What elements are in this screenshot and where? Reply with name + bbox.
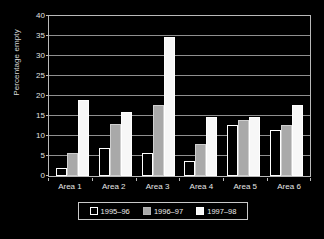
x-tick-label: Area 4 [179,178,223,194]
x-tick-label-text: Area 2 [102,182,126,191]
bar-group [179,16,222,176]
x-tick-label: Area 6 [267,178,311,194]
y-tick-label: 5 [41,152,45,160]
legend-swatch [90,207,98,215]
y-axis-title: Percentage empty [12,3,21,123]
legend-label: 1997–98 [207,207,236,216]
chart-legend: 1995–961996–971997–98 [78,202,248,220]
bar-group [137,16,180,176]
x-tick-mark [92,178,93,181]
x-tick-mark [136,178,137,181]
plot-area: 0510152025303540 [48,15,311,177]
y-tick-label: 30 [36,52,45,60]
y-tick-label: 25 [36,72,45,80]
legend-swatch [196,207,204,215]
bar [195,144,206,176]
x-tick-mark [223,178,224,181]
x-tick-label-text: Area 3 [146,182,170,191]
bar [249,117,260,176]
x-tick-label-text: Area 4 [190,182,214,191]
bar [184,161,195,176]
legend-item[interactable]: 1995–96 [90,207,130,216]
y-tick-label: 15 [36,112,45,120]
bar [99,148,110,176]
bar [164,37,175,176]
x-tick-label: Area 2 [92,178,136,194]
y-tick-label: 35 [36,32,45,40]
bar [227,125,238,176]
bar-group [51,16,94,176]
bar [78,100,89,176]
x-tick-mark [267,178,268,181]
y-tick-label: 0 [41,172,45,180]
bar [206,117,217,176]
bar [56,168,67,176]
x-tick-label-text: Area 5 [233,182,257,191]
y-tick-label: 20 [36,92,45,100]
x-tick-label-text: Area 1 [58,182,82,191]
x-tick-mark [48,178,49,181]
x-tick-label: Area 5 [223,178,267,194]
bar [110,124,121,176]
x-tick-mark [310,178,311,181]
x-tick-label: Area 3 [136,178,180,194]
bar-group [222,16,265,176]
bar-chart-figure: Percentage empty 0510152025303540 Area 1… [0,0,324,239]
legend-label: 1996–97 [154,207,183,216]
legend-swatch [143,207,151,215]
bar-groups [49,16,310,176]
y-tick-label: 10 [36,132,45,140]
bar [153,105,164,176]
y-tick-label: 40 [36,12,45,20]
x-tick-mark [179,178,180,181]
bar [67,153,78,176]
bar-group [94,16,137,176]
x-tick-label: Area 1 [48,178,92,194]
bar [270,130,281,176]
bar [281,125,292,176]
bar [142,153,153,176]
legend-item[interactable]: 1996–97 [143,207,183,216]
legend-item[interactable]: 1997–98 [196,207,236,216]
bar [121,112,132,176]
legend-label: 1995–96 [101,207,130,216]
bar [238,120,249,176]
x-axis-labels: Area 1Area 2Area 3Area 4Area 5Area 6 [48,178,311,194]
bar-group [265,16,308,176]
x-tick-label-text: Area 6 [277,182,301,191]
bar [292,105,303,176]
